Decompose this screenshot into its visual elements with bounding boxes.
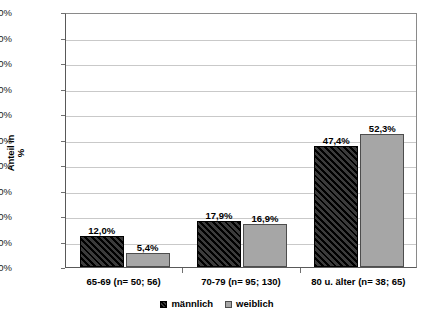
y-tick-label: 50% — [0, 136, 12, 146]
legend-swatch-maennlich-icon — [160, 301, 167, 308]
y-tick-label: 20% — [0, 212, 12, 222]
plot-area: 12,0%5,4%17,9%16,9%47,4%52,3% — [65, 13, 417, 268]
legend-label-maennlich: männlich — [171, 299, 213, 309]
y-axis-title: Anteil in % — [0, 116, 32, 190]
bar-chart: Anteil in % 100%90%80%70%60%50%40%30%20%… — [0, 0, 434, 320]
bar-value-label: 12,0% — [80, 226, 124, 236]
legend-swatch-weiblich-icon — [225, 301, 232, 308]
x-tick-mark — [300, 268, 301, 273]
x-category-label: 70-79 (n= 95; 130) — [182, 276, 299, 287]
y-tick-label: 10% — [0, 238, 12, 248]
legend-label-weiblich: weiblich — [236, 299, 273, 309]
y-tick-label: 70% — [0, 85, 12, 95]
gridline — [66, 91, 416, 92]
legend: männlich weiblich — [0, 299, 434, 309]
legend-item-weiblich: weiblich — [225, 299, 273, 309]
bar-male — [80, 236, 124, 267]
y-tick-label: 0% — [0, 263, 12, 273]
y-tick-label: 90% — [0, 34, 12, 44]
bar-value-label: 52,3% — [360, 124, 404, 134]
x-category-label: 65-69 (n= 50; 56) — [65, 276, 182, 287]
bar-value-label: 47,4% — [314, 136, 358, 146]
bar-male — [314, 146, 358, 267]
y-tick-label: 60% — [0, 110, 12, 120]
bar-value-label: 5,4% — [126, 243, 170, 253]
x-category-label: 80 u. älter (n= 38; 65) — [300, 276, 417, 287]
y-tick-label: 30% — [0, 187, 12, 197]
gridline — [66, 40, 416, 41]
gridline — [66, 65, 416, 66]
bar-female — [126, 253, 170, 267]
bar-female — [243, 224, 287, 267]
y-axis-title-line2: % — [16, 149, 27, 157]
gridline — [66, 116, 416, 117]
bar-male — [197, 221, 241, 267]
y-tick-label: 40% — [0, 161, 12, 171]
bar-female — [360, 134, 404, 267]
bar-value-label: 16,9% — [243, 214, 287, 224]
y-tick-label: 100% — [0, 8, 12, 18]
bar-value-label: 17,9% — [197, 211, 241, 221]
legend-item-maennlich: männlich — [160, 299, 213, 309]
y-tick-mark — [61, 268, 65, 269]
x-tick-mark — [182, 268, 183, 273]
y-tick-label: 80% — [0, 59, 12, 69]
